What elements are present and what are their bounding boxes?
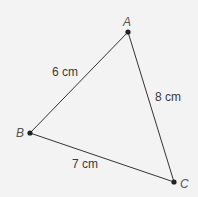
triangle-abc: [30, 32, 174, 182]
vertex-b-point: [27, 130, 32, 135]
vertex-c-point: [171, 179, 176, 184]
side-ab-label: 6 cm: [52, 65, 78, 79]
vertex-a-point: [125, 29, 130, 34]
side-ac-label: 8 cm: [155, 90, 181, 104]
vertex-b-label: B: [16, 126, 24, 140]
side-bc-label: 7 cm: [72, 157, 98, 171]
vertex-c-label: C: [180, 177, 189, 191]
vertex-a-label: A: [123, 15, 131, 29]
